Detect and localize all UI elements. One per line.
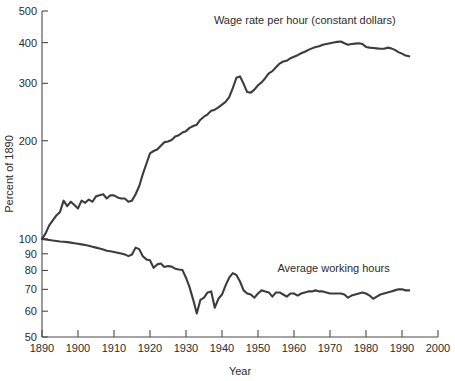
y-tick-label: 400 bbox=[19, 37, 37, 49]
chart-page: 5060708090100200300400500 18901900191019… bbox=[0, 0, 455, 381]
x-tick-label: 1920 bbox=[138, 342, 162, 354]
x-tick-label: 1980 bbox=[354, 342, 378, 354]
x-tick-label: 1940 bbox=[210, 342, 234, 354]
y-tick-label: 60 bbox=[25, 305, 37, 317]
y-tick-label: 200 bbox=[19, 135, 37, 147]
y-tick-label: 70 bbox=[25, 283, 37, 295]
x-tick-label: 1910 bbox=[102, 342, 126, 354]
x-axis-title: Year bbox=[229, 365, 252, 377]
series-line-wage-rate bbox=[42, 42, 409, 239]
y-tick-group: 5060708090100200300400500 bbox=[19, 5, 48, 343]
x-tick-label: 1930 bbox=[174, 342, 198, 354]
x-tick-label: 1900 bbox=[66, 342, 90, 354]
x-tick-label: 2000 bbox=[426, 342, 450, 354]
y-axis-title: Percent of 1890 bbox=[3, 135, 15, 213]
x-tick-label: 1890 bbox=[30, 342, 54, 354]
series-label-wage-rate: Wage rate per hour (constant dollars) bbox=[214, 14, 396, 26]
series-label-working-hours: Average working hours bbox=[277, 262, 390, 274]
series-line-working-hours bbox=[42, 239, 409, 314]
x-tick-group: 1890190019101920193019401950196019701980… bbox=[30, 330, 450, 354]
y-tick-label: 100 bbox=[19, 233, 37, 245]
y-tick-label: 500 bbox=[19, 5, 37, 17]
axes-group bbox=[42, 11, 438, 337]
y-tick-label: 300 bbox=[19, 77, 37, 89]
line-chart: 5060708090100200300400500 18901900191019… bbox=[0, 0, 455, 381]
x-tick-label: 1970 bbox=[318, 342, 342, 354]
y-tick-label: 90 bbox=[25, 248, 37, 260]
x-tick-label: 1950 bbox=[246, 342, 270, 354]
x-tick-label: 1960 bbox=[282, 342, 306, 354]
y-tick-label: 80 bbox=[25, 264, 37, 276]
series-label-group: Wage rate per hour (constant dollars)Ave… bbox=[214, 14, 396, 274]
x-tick-label: 1990 bbox=[390, 342, 414, 354]
